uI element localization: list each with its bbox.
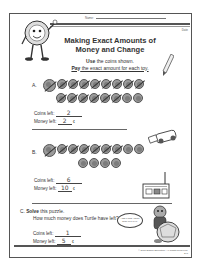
toy-car-icon [148, 127, 180, 145]
coins-left-answer[interactable]: 1 [55, 230, 81, 237]
section-c-coins-left: Coins left: 1 [33, 230, 81, 237]
dime-coin-icon[interactable] [134, 144, 144, 154]
section-b-money-left: Money left: 10¢ [34, 185, 75, 192]
header-bar [50, 23, 190, 25]
header-bar-thin [50, 26, 190, 27]
nickel-coin-icon[interactable] [67, 93, 77, 103]
nickel-coin-icon[interactable] [123, 79, 133, 89]
dime-coin-icon[interactable] [78, 158, 88, 168]
nickel-coin-icon[interactable] [111, 93, 121, 103]
nickel-coin-icon[interactable] [112, 79, 122, 89]
money-left-answer[interactable]: 10 [58, 185, 72, 192]
section-c-question: How much money does Turtle have left? [33, 216, 125, 222]
section-c-money-left: Money left: 5¢ [33, 238, 74, 245]
instr-pay: Pay [71, 65, 80, 71]
coins-left-answer[interactable]: 6 [56, 177, 82, 184]
quarter-coin-icon[interactable] [43, 79, 56, 92]
dime-coin-icon[interactable] [101, 144, 111, 154]
section-a-coins-left: Coins left: 2 [34, 110, 82, 117]
dime-coin-icon[interactable] [89, 158, 99, 168]
dime-coin-icon[interactable] [123, 144, 133, 154]
nickel-coin-icon[interactable] [100, 93, 110, 103]
dime-coin-icon[interactable] [79, 144, 89, 154]
toy-radio-icon [139, 172, 171, 202]
nickel-coin-icon[interactable] [101, 79, 111, 89]
dime-coin-icon[interactable] [57, 144, 67, 154]
nickel-coin-icon[interactable] [133, 93, 143, 103]
solve-rest: this puzzle. [39, 209, 64, 214]
copyright-footer: © 2008 Edison Education. All Rights Rese… [138, 249, 188, 255]
coins-left-label: Coins left: [34, 111, 54, 116]
nickel-coin-icon[interactable] [90, 79, 100, 89]
dime-coin-icon[interactable] [90, 144, 100, 154]
section-b-coins-left: Coins left: 6 [34, 177, 82, 184]
speech-bubble: I had 6 coins. I spent some on a yo-yo. [117, 213, 143, 228]
title-line-2: Money and Change [50, 45, 170, 54]
money-left-answer[interactable]: 2 [58, 118, 72, 125]
section-b-label: B. [32, 149, 37, 155]
cent-symbol: ¢ [73, 186, 75, 191]
money-left-label: Money left: [34, 119, 56, 124]
copyright-text: © 2008 Edison Education. All Rights Rese… [138, 249, 188, 252]
money-left-answer[interactable]: 5 [57, 238, 71, 245]
nickel-coin-icon[interactable] [68, 79, 78, 89]
section-c-prompt: C. Solve this puzzle. [20, 209, 110, 215]
instructions: Use the coins shown. Pay the exact amoun… [40, 58, 180, 71]
nickel-coin-icon[interactable] [56, 93, 66, 103]
name-field[interactable]: Name: [85, 16, 185, 20]
dime-coin-icon[interactable] [111, 158, 121, 168]
dime-coin-icon[interactable] [68, 144, 78, 154]
date-label: Date [182, 28, 188, 32]
section-b-coins-row2 [78, 158, 121, 168]
coins-left-label: Coins left: [34, 178, 54, 183]
coins-left-label: Coins left: [33, 231, 53, 236]
section-a-coins-row2 [56, 93, 143, 103]
name-label: Name: [85, 16, 94, 20]
turtle-icon [144, 204, 182, 244]
footer-bar [14, 245, 190, 247]
section-c-label: C. [20, 209, 25, 214]
section-a-coins-row1 [43, 79, 144, 92]
nickel-coin-icon[interactable] [78, 93, 88, 103]
money-left-label: Money left: [34, 186, 56, 191]
nickel-coin-icon[interactable] [89, 93, 99, 103]
instr-use-rest: the coins shown. [95, 58, 134, 64]
page-title: Making Exact Amounts of Money and Change [50, 36, 170, 54]
dime-coin-icon[interactable] [112, 144, 122, 154]
instr-use: Use [86, 58, 95, 64]
section-b-coins-row1 [43, 144, 144, 157]
solve-bold: Solve [26, 209, 39, 214]
page-number: 241 [138, 252, 188, 255]
nickel-coin-icon[interactable] [57, 79, 67, 89]
pencil-icon [162, 54, 174, 76]
money-left-label: Money left: [33, 239, 55, 244]
cent-symbol: ¢ [73, 119, 75, 124]
title-line-1: Making Exact Amounts of [50, 36, 170, 45]
section-divider [32, 129, 127, 130]
section-a-label: A. [32, 82, 37, 88]
dime-coin-icon[interactable] [100, 158, 110, 168]
nickel-coin-icon[interactable] [134, 79, 144, 89]
coins-left-answer[interactable]: 2 [56, 110, 82, 117]
nickel-coin-icon[interactable] [122, 93, 132, 103]
worksheet-page: Name: Date Making Exact Amounts of Money… [9, 13, 192, 258]
section-a-money-left: Money left: 2¢ [34, 118, 75, 125]
cent-symbol: ¢ [72, 239, 74, 244]
quarter-coin-icon[interactable] [43, 144, 56, 157]
nickel-coin-icon[interactable] [79, 79, 89, 89]
instr-pay-rest: the exact amount for each toy. [80, 65, 148, 71]
